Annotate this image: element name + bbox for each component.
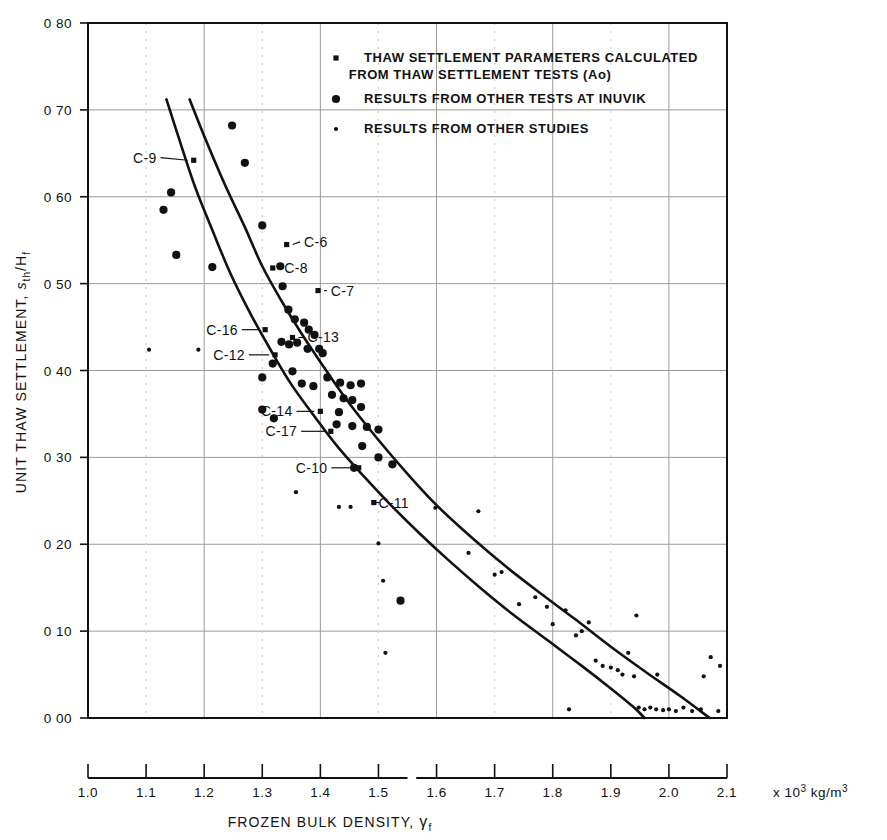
annotation-label: C-11 [378, 495, 409, 511]
data-point [642, 707, 646, 711]
y-axis-tick-label: 0 70 [44, 103, 72, 118]
data-point [319, 349, 327, 357]
data-point [258, 221, 266, 229]
data-point [574, 633, 578, 637]
x-axis-tick-label: 1.1 [136, 785, 156, 800]
data-point [356, 465, 361, 470]
x-axis-tick-label: 1.5 [368, 785, 388, 800]
data-point [632, 674, 636, 678]
data-point [336, 379, 344, 387]
data-point [476, 509, 480, 513]
x-axis-tick-label: 1.9 [601, 785, 621, 800]
data-point [348, 422, 356, 430]
data-point [551, 622, 555, 626]
data-point [374, 453, 382, 461]
legend-entry-label: RESULTS FROM OTHER STUDIES [364, 121, 589, 136]
data-point [228, 121, 236, 129]
data-point [667, 707, 671, 711]
data-point [466, 551, 470, 555]
annotation-label: C-12 [213, 347, 245, 363]
data-point [290, 335, 295, 340]
data-point [637, 705, 641, 709]
data-point [191, 158, 196, 163]
data-point [298, 379, 306, 387]
data-point [276, 262, 284, 270]
data-point [634, 613, 638, 617]
data-point [500, 570, 504, 574]
data-point [567, 707, 571, 711]
data-point [601, 664, 605, 668]
data-point [337, 505, 341, 509]
data-point [269, 359, 277, 367]
annotation-label: C-13 [308, 329, 340, 345]
data-point [690, 709, 694, 713]
data-point [288, 367, 296, 375]
annotation-label: C-14 [261, 403, 293, 419]
data-point [587, 620, 591, 624]
y-axis-tick-label: 0 50 [44, 277, 72, 292]
y-axis-tick-label: 0 60 [44, 190, 72, 205]
data-point [609, 666, 613, 670]
data-point [284, 242, 289, 247]
data-point [263, 327, 268, 332]
chart-canvas: 0 800 700 600 500 400 300 200 100 00 1.0… [0, 0, 887, 840]
annotation-label: C-9 [133, 150, 156, 166]
data-point [357, 403, 365, 411]
x-axis-tick-label: 1.4 [310, 785, 330, 800]
data-point [272, 352, 277, 357]
legend-entry-label: RESULTS FROM OTHER TESTS AT INUVIK [364, 91, 646, 106]
data-point [241, 159, 249, 167]
data-point [699, 707, 703, 711]
data-point [363, 423, 371, 431]
data-point [433, 506, 437, 510]
data-point [545, 605, 549, 609]
data-point [493, 573, 497, 577]
x-axis-tick-label: 1.2 [194, 785, 214, 800]
annotation-label: C-16 [206, 322, 238, 338]
data-point [346, 381, 354, 389]
data-point [279, 282, 287, 290]
x-axis-units-text: x 103 kg/m3 [773, 783, 848, 800]
x-axis-tick-label: 1.6 [426, 785, 446, 800]
y-axis-tick-label: 0 80 [44, 16, 72, 31]
data-point [563, 608, 567, 612]
data-point [300, 319, 308, 327]
data-point [388, 460, 396, 468]
data-point [318, 409, 323, 414]
data-point [328, 391, 336, 399]
annotation-label: C-8 [284, 260, 307, 276]
data-point [309, 382, 317, 390]
data-point [381, 579, 385, 583]
data-point [348, 396, 356, 404]
data-point [616, 668, 620, 672]
data-point [258, 373, 266, 381]
data-point [277, 338, 285, 346]
y-axis-tick-label: 0 20 [44, 537, 72, 552]
y-axis-tick-label: 0 40 [44, 364, 72, 379]
data-point [620, 672, 624, 676]
data-point [208, 263, 216, 271]
data-point [340, 394, 348, 402]
legend-entry-2: RESULTS FROM OTHER STUDIES [334, 121, 589, 136]
legend-entry-label: THAW SETTLEMENT PARAMETERS CALCULATED [364, 50, 698, 65]
data-point [580, 629, 584, 633]
data-point [626, 651, 630, 655]
x-axis-tick-label: 2.1 [717, 785, 737, 800]
data-point [654, 707, 658, 711]
data-point [328, 429, 333, 434]
x-axis-tick-label: 1.3 [252, 785, 272, 800]
data-point [594, 659, 598, 663]
annotation-C-11: C-11 [374, 495, 409, 511]
data-point [681, 705, 685, 709]
data-point [167, 188, 175, 196]
legend-marker-cross-small-square [333, 55, 338, 60]
data-point [323, 373, 331, 381]
data-point [517, 602, 521, 606]
data-point [303, 345, 311, 353]
data-point [718, 664, 722, 668]
x-axis-tick-label: 1.0 [78, 785, 98, 800]
legend-marker-filled-dot-small [334, 127, 338, 131]
data-point [196, 348, 200, 352]
data-point [661, 708, 665, 712]
data-point [376, 541, 380, 545]
